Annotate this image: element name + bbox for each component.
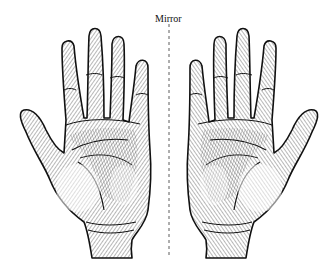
left-hand-drawing: [20, 29, 150, 259]
hands-diagram: [0, 0, 336, 275]
right-hand-drawing: [187, 29, 317, 259]
